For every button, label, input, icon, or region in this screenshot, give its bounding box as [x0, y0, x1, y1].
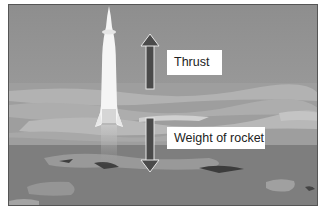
rocket-diagram-image	[8, 4, 318, 206]
weight-label: Weight of rocket	[167, 127, 265, 149]
thrust-label-text: Thrust	[174, 56, 209, 69]
scene-illustration	[9, 5, 318, 206]
ground	[9, 145, 318, 206]
thrust-label: Thrust	[167, 50, 222, 75]
cloud-band	[9, 83, 318, 145]
exhaust-plume	[101, 125, 117, 165]
weight-label-text: Weight of rocket	[174, 132, 264, 145]
